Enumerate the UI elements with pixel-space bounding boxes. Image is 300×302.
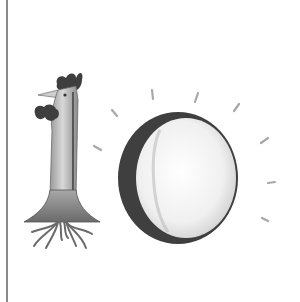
sun-zero-figure: [94, 90, 275, 244]
number-ten-illustration: [0, 0, 300, 302]
chicken-eye-icon: [63, 93, 66, 96]
chicken-feet-icon: [32, 222, 92, 248]
illustration-page: [0, 0, 300, 302]
chicken-base: [24, 190, 100, 222]
chicken-one-figure: [24, 73, 100, 248]
zero-face: [136, 118, 236, 238]
